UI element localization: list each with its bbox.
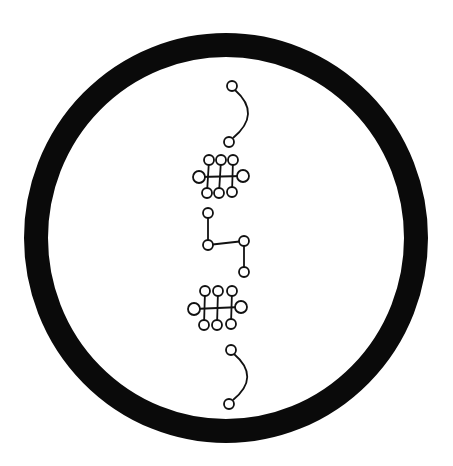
atom-node <box>227 286 237 296</box>
atom-node <box>235 301 247 313</box>
atom-node <box>199 320 209 330</box>
atom-node <box>200 286 210 296</box>
atom-node <box>193 171 205 183</box>
molecule-chain <box>188 81 249 409</box>
outer-ring <box>36 45 416 431</box>
atom-node <box>226 345 236 355</box>
atom-node <box>203 240 213 250</box>
atom-node <box>212 320 222 330</box>
bottom-arc <box>224 345 247 409</box>
zigzag <box>203 208 249 277</box>
atom-node <box>228 155 238 165</box>
atom-node <box>239 236 249 246</box>
ladder-2 <box>188 286 247 330</box>
atom-node <box>202 188 212 198</box>
bond-arc <box>233 90 248 138</box>
atom-node <box>226 319 236 329</box>
atom-node <box>203 208 213 218</box>
atom-node <box>213 286 223 296</box>
atom-node <box>239 267 249 277</box>
bond-arc <box>233 354 247 400</box>
atom-node <box>214 188 224 198</box>
atom-node <box>216 155 226 165</box>
atom-node <box>224 137 234 147</box>
top-arc <box>224 81 248 147</box>
atom-node <box>227 81 237 91</box>
diagram-canvas <box>0 0 453 466</box>
atom-node <box>237 170 249 182</box>
ladder-1 <box>193 155 249 198</box>
atom-node <box>188 303 200 315</box>
atom-node <box>224 399 234 409</box>
atom-node <box>204 155 214 165</box>
atom-node <box>227 187 237 197</box>
